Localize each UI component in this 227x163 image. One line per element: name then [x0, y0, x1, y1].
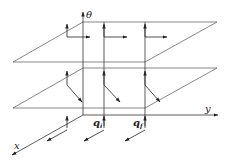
qf-label: qf [133, 117, 144, 130]
base-diag-arrow-left [47, 130, 67, 141]
base-diag-arrow-qi [84, 130, 104, 141]
qi-label-sub: i [100, 122, 103, 129]
qi-label: qi [93, 117, 103, 129]
lower-diag-arrow-left [67, 85, 82, 102]
theta-axis-label: θ [86, 9, 92, 20]
lower-diag-arrow-qi [104, 85, 120, 102]
qf-label-main: q [133, 117, 140, 128]
upper-plane [13, 22, 217, 62]
base-diag-arrow-qf [125, 130, 145, 141]
y-axis-label: y [204, 103, 211, 114]
configuration-space-diagram: θ y x qi qf [0, 0, 227, 163]
qf-label-sub: f [139, 122, 144, 130]
qi-label-main: q [93, 117, 100, 128]
lower-diag-arrow-qf [145, 85, 160, 102]
x-axis-label: x [14, 140, 20, 151]
lower-plane [13, 68, 217, 108]
x-axis [12, 115, 83, 155]
